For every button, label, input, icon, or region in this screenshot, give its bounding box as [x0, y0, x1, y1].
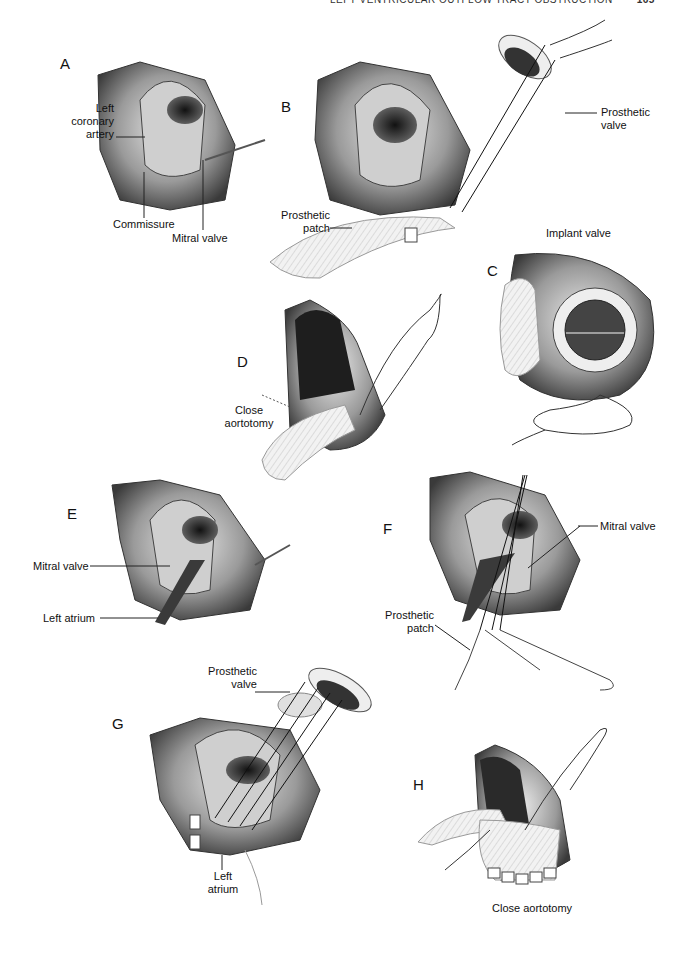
panel-a-illustration — [98, 62, 265, 230]
label-prosthetic-valve-g: Prosthetic valve — [205, 665, 257, 691]
label-prosthetic-patch-f: Prosthetic patch — [372, 609, 434, 635]
panel-letter-h: H — [413, 776, 424, 793]
label-close-aortotomy-d: Close aortotomy — [222, 404, 276, 430]
label-close-aortotomy-h: Close aortotomy — [492, 902, 572, 915]
panel-letter-f: F — [383, 520, 392, 537]
surgical-illustrations — [0, 0, 693, 964]
label-mitral-valve-a: Mitral valve — [172, 232, 228, 245]
panel-letter-e: E — [67, 505, 77, 522]
label-prosthetic-patch-b: Prosthetic patch — [262, 209, 330, 235]
panel-g-illustration — [150, 660, 378, 905]
label-left-atrium-g: Left atrium — [205, 870, 241, 896]
label-commissure: Commissure — [113, 218, 175, 231]
panel-h-illustration — [418, 728, 607, 884]
panel-letter-a: A — [60, 55, 70, 72]
label-implant-valve: Implant valve — [546, 227, 611, 240]
panel-d-illustration — [262, 294, 441, 480]
panel-f-illustration — [430, 472, 613, 690]
label-prosthetic-valve-b: Prosthetic valve — [601, 106, 650, 132]
panel-letter-c: C — [487, 262, 498, 279]
panel-letter-b: B — [281, 98, 291, 115]
panel-c-illustration — [500, 253, 654, 445]
panel-e-illustration — [90, 480, 290, 625]
label-left-coronary-artery: Left coronary artery — [50, 102, 114, 141]
panel-letter-g: G — [112, 715, 124, 732]
label-mitral-valve-f: Mitral valve — [600, 520, 656, 533]
label-mitral-valve-e: Mitral valve — [33, 560, 89, 573]
panel-letter-d: D — [237, 353, 248, 370]
label-left-atrium-e: Left atrium — [43, 612, 95, 625]
